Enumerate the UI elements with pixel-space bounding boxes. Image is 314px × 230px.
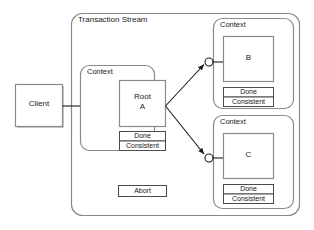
- context-c-consistent-label: Consistent: [223, 195, 274, 202]
- context-root-done-label: Done: [119, 132, 166, 139]
- context-c-port-circle: [205, 154, 213, 162]
- context-b-done-label: Done: [223, 88, 274, 95]
- node-root-a-label-line1: Root: [119, 93, 166, 101]
- context-c-label: Context: [220, 118, 246, 126]
- transaction-stream-label: Transaction Stream: [78, 16, 148, 24]
- diagram-canvas: Transaction Stream Client Context Root A…: [0, 0, 314, 230]
- context-b-label: Context: [220, 21, 246, 29]
- node-b-label: B: [223, 54, 274, 62]
- context-b-consistent-label: Consistent: [223, 98, 274, 105]
- abort-label: Abort: [118, 187, 167, 194]
- context-root-label: Context: [87, 68, 113, 76]
- context-b-port-circle: [205, 58, 213, 66]
- node-root-a-label-line2: A: [119, 103, 166, 111]
- context-c-done-label: Done: [223, 185, 274, 192]
- client-label: Client: [15, 100, 63, 108]
- node-c-label: C: [223, 151, 274, 159]
- context-root-consistent-label: Consistent: [119, 142, 166, 149]
